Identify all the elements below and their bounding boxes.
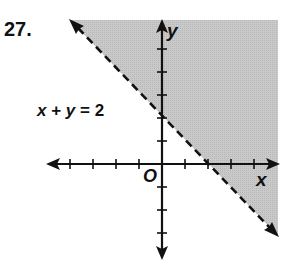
equation-y: y [66, 101, 75, 120]
equation-plus: + [46, 101, 65, 120]
x-axis-label: x [256, 169, 267, 191]
equation-label: x + y = 2 [37, 101, 104, 121]
origin-label: O [143, 166, 157, 187]
y-axis-label: y [167, 20, 178, 42]
inequality-graph [0, 0, 286, 273]
equation-rest: = 2 [75, 101, 104, 120]
